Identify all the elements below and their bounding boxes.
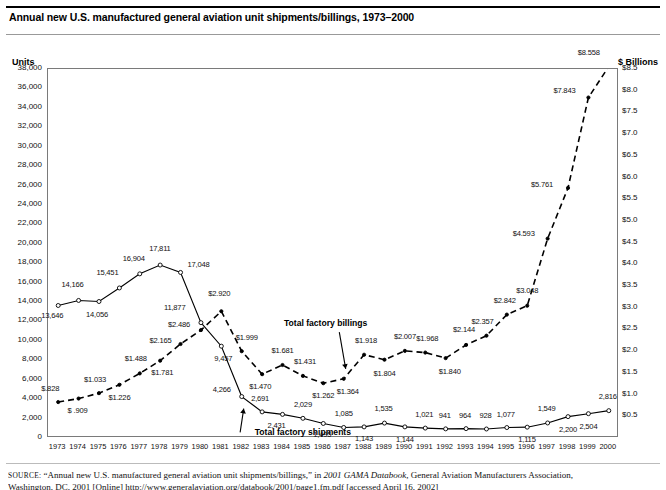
billings-point-1981 [220, 310, 223, 313]
shipments-point-2000 [607, 409, 611, 413]
shipments-label-1981: 9,457 [214, 354, 232, 363]
shipments-label-1980: 11,877 [164, 303, 185, 312]
billings-label-1997: $4.593 [513, 229, 535, 238]
source-line-2: Washington, DC, 2001 [Online] http://www… [8, 482, 660, 490]
billings-label-1996: $3.048 [516, 286, 538, 295]
billings-point-1973 [57, 400, 60, 403]
billings-point-1987 [342, 377, 345, 380]
left-tick-12000: 12,000 [0, 315, 42, 324]
shipments-point-1978 [158, 263, 162, 267]
left-tick-8000: 8,000 [0, 354, 42, 363]
billings-label-1993: $2.144 [453, 325, 475, 334]
shipments-point-1983 [260, 410, 264, 414]
shipments-label-1987: 1,085 [335, 409, 353, 418]
left-tick-18000: 18,000 [0, 257, 42, 266]
title-rule-bottom [6, 34, 660, 35]
left-tick-28000: 28,000 [0, 160, 42, 169]
shipments-point-1986 [321, 421, 325, 425]
leader-arrowhead [240, 409, 246, 414]
billings-point-1984 [281, 363, 284, 366]
left-tick-16000: 16,000 [0, 277, 42, 286]
series-label-shipments: Total factory shipments [255, 427, 351, 437]
left-tick-10000: 10,000 [0, 335, 42, 344]
source-label: SOURCE: [8, 471, 41, 480]
shipments-point-1997 [546, 421, 550, 425]
billings-label-1999: $7.843 [553, 86, 575, 95]
billings-label-1984: $1.681 [272, 346, 294, 355]
shipments-point-1977 [138, 272, 142, 276]
shipments-point-1985 [301, 416, 305, 420]
left-tick-20000: 20,000 [0, 238, 42, 247]
shipments-point-1993 [464, 427, 468, 431]
x-tick-2000: 2000 [593, 442, 623, 451]
billings-label-1978: $1.781 [151, 368, 173, 377]
right-tick-2: $2.0 [622, 345, 664, 354]
billings-point-1997 [546, 237, 549, 240]
billings-point-1990 [403, 349, 406, 352]
billings-label-1974: $ .909 [68, 406, 88, 415]
left-tick-38000: 38,000 [0, 63, 42, 72]
billings-label-1995: $2.842 [494, 296, 516, 305]
right-tick-3: $3.0 [622, 302, 664, 311]
right-tick-6-5: $6.5 [622, 150, 664, 159]
source-text-b: , General Aviation Manufacturers Associa… [406, 470, 573, 480]
right-tick-7: $7.0 [622, 128, 664, 137]
billings-point-1976 [118, 383, 121, 386]
billings-label-1983: $1.470 [249, 382, 271, 391]
billings-label-1973: $.828 [41, 384, 59, 393]
billings-point-1978 [159, 359, 162, 362]
shipments-label-1977: 16,904 [123, 254, 145, 263]
billings-label-1994: $2.357 [471, 317, 493, 326]
leader-arrowhead [342, 364, 348, 369]
shipments-point-1996 [525, 425, 529, 429]
billings-point-1982 [240, 350, 243, 353]
billings-label-1982: $1.999 [236, 333, 258, 342]
billings-point-1999 [587, 96, 590, 99]
billings-point-1980 [199, 328, 202, 331]
left-tick-30000: 30,000 [0, 141, 42, 150]
billings-label-1980: $2.486 [168, 320, 190, 329]
title-rule-top [6, 6, 660, 8]
shipments-point-1994 [484, 427, 488, 431]
left-tick-6000: 6,000 [0, 374, 42, 383]
right-tick-2-5: $2.5 [622, 323, 664, 332]
right-tick-5-5: $5.5 [622, 193, 664, 202]
billings-label-1975: $1.033 [84, 375, 106, 384]
shipments-label-1989: 1,535 [374, 404, 392, 413]
right-tick-4: $4.0 [622, 258, 664, 267]
shipments-point-1981 [219, 344, 223, 348]
shipments-point-1973 [56, 303, 60, 307]
billings-point-1975 [97, 392, 100, 395]
right-tick-8-5: $8.5 [622, 63, 664, 72]
left-tick-36000: 36,000 [0, 82, 42, 91]
leader-line [339, 332, 345, 369]
billings-point-1994 [485, 334, 488, 337]
source-text-a: “Annual new U.S. manufactured general av… [41, 470, 323, 480]
shipments-label-2000: 2,816 [599, 392, 617, 401]
billings-label-1989: $1.804 [373, 369, 395, 378]
left-tick-24000: 24,000 [0, 199, 42, 208]
billings-point-1992 [444, 357, 447, 360]
billings-point-1979 [179, 342, 182, 345]
billings-label-1988: $1.918 [355, 336, 377, 345]
left-tick-22000: 22,000 [0, 218, 42, 227]
billings-point-1991 [424, 351, 427, 354]
right-tick-6: $6.0 [622, 172, 664, 181]
billings-label-1981: $2.920 [208, 289, 230, 298]
shipments-point-1984 [281, 412, 285, 416]
shipments-point-1979 [179, 270, 183, 274]
shipments-label-1988: 1,143 [355, 434, 373, 443]
source-rule [6, 463, 660, 464]
shipments-label-1985: 2,029 [294, 400, 312, 409]
right-tick-1: $1.0 [622, 389, 664, 398]
billings-label-1979: $2.165 [150, 336, 172, 345]
right-tick-1-5: $1.5 [622, 367, 664, 376]
billings-label-1986: $1.262 [312, 391, 334, 400]
right-tick-7-5: $7.5 [622, 106, 664, 115]
billings-label-1985: $1.431 [294, 357, 316, 366]
billings-point-1988 [362, 353, 365, 356]
billings-label-1977: $1.488 [125, 354, 147, 363]
shipments-label-1982: 4,266 [213, 385, 231, 394]
shipments-label-1975: 14,056 [86, 310, 108, 319]
billings-label-1998: $5.761 [531, 180, 553, 189]
